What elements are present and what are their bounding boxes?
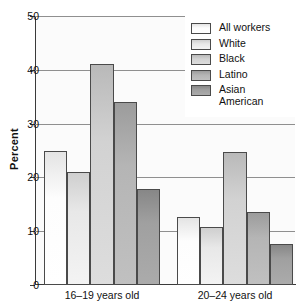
x-group-label-0: 16–19 years old (47, 289, 157, 301)
legend-item-asian-american[interactable]: Asian American (191, 84, 291, 107)
legend-label: All workers (219, 22, 270, 34)
bar-latino-16-19-years-old (114, 102, 137, 285)
y-tick-label-40: 40 (13, 65, 39, 75)
legend-item-all-workers[interactable]: All workers (191, 22, 291, 34)
legend-label: Latino (219, 69, 248, 81)
legend-swatch-icon (191, 54, 211, 65)
y-axis-title: Percent (8, 114, 20, 184)
bar-white-20-24-years-old (200, 227, 223, 285)
legend-label: Black (219, 53, 245, 65)
legend-swatch-icon (191, 70, 211, 81)
legend-item-latino[interactable]: Latino (191, 69, 291, 81)
legend-item-black[interactable]: Black (191, 53, 291, 65)
y-tick-label-50: 50 (13, 11, 39, 21)
legend-swatch-icon (191, 39, 211, 50)
gridline-30 (35, 124, 295, 125)
legend-swatch-icon (191, 23, 211, 34)
legend-label: White (219, 38, 246, 50)
bar-all-workers-16-19-years-old (44, 151, 67, 286)
bar-chart: 01020304050 Percent 16–19 years old20–24… (0, 0, 307, 306)
legend: All workersWhiteBlackLatinoAsian America… (185, 16, 295, 117)
bar-latino-20-24-years-old (247, 212, 270, 285)
x-group-label-1: 20–24 years old (180, 289, 290, 301)
bar-asian-american-16-19-years-old (137, 189, 160, 285)
bar-black-20-24-years-old (223, 152, 246, 285)
page-edge (0, 302, 307, 306)
legend-item-white[interactable]: White (191, 38, 291, 50)
legend-swatch-icon (191, 85, 211, 96)
bar-white-16-19-years-old (67, 172, 90, 285)
y-tick-label-0: 0 (13, 280, 39, 290)
bar-black-16-19-years-old (90, 64, 113, 285)
legend-label: Asian American (219, 84, 263, 107)
bar-asian-american-20-24-years-old (270, 244, 293, 285)
bar-all-workers-20-24-years-old (177, 217, 200, 285)
y-tick-label-10: 10 (13, 226, 39, 236)
